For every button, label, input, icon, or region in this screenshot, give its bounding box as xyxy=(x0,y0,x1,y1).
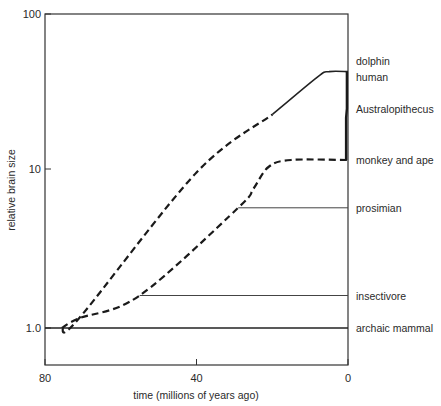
right-labels: dolphinhumanAustralopithecusmonkey and a… xyxy=(356,55,434,334)
label-human: human xyxy=(356,71,388,83)
label-prosimian: prosimian xyxy=(356,202,402,214)
y-axis-ticks: 1.010100 xyxy=(23,8,51,334)
label-archaic-mammal: archaic mammal xyxy=(356,322,433,334)
series-upper-lineage-to-dolphin-dashed xyxy=(62,115,272,333)
label-insectivore: insectivore xyxy=(356,290,406,302)
label-australopithecus: Australopithecus xyxy=(356,103,434,115)
brain-size-chart: 1.010100 80400 dolphinhumanAustralopithe… xyxy=(0,0,441,406)
x-tick-label: 0 xyxy=(345,372,351,384)
x-axis-title: time (millions of years ago) xyxy=(133,389,258,401)
x-tick-label: 80 xyxy=(39,372,51,384)
series-group xyxy=(45,71,348,332)
y-tick-label: 100 xyxy=(23,8,41,20)
series-upper-lineage-to-dolphin-solid xyxy=(272,71,348,114)
label-dolphin: dolphin xyxy=(356,55,390,67)
y-tick-label: 1.0 xyxy=(26,322,41,334)
label-monkey-and-ape: monkey and ape xyxy=(356,154,434,166)
x-axis-ticks: 80400 xyxy=(39,359,351,384)
y-tick-label: 10 xyxy=(29,163,41,175)
series-human-via-australopithecus xyxy=(346,72,347,160)
series-primate-lineage-to-monkey-and-ape xyxy=(62,159,348,328)
x-tick-label: 40 xyxy=(190,372,202,384)
plot-frame xyxy=(45,14,348,365)
y-axis-title: relative brain size xyxy=(5,149,17,231)
